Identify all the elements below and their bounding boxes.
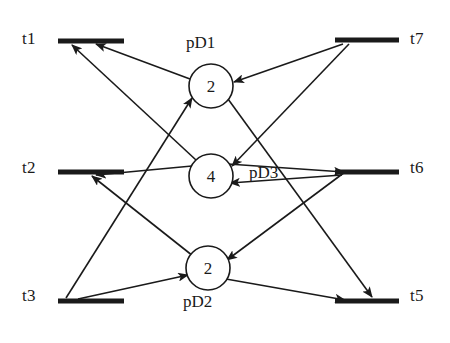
arc-pD1-to-t1 [96, 44, 190, 79]
place-token-count-pD1: 2 [207, 77, 216, 96]
transition-label-t5: t5 [410, 286, 424, 306]
place-token-count-pD2: 2 [204, 259, 213, 278]
transition-label-t1: t1 [22, 29, 36, 49]
place-label-pD2: pD2 [183, 292, 212, 312]
arc-pD2-to-t2 [92, 176, 193, 256]
place-label-pD1: pD1 [186, 33, 215, 53]
transition-label-t3: t3 [22, 286, 36, 306]
arc-t3-to-pD1 [66, 98, 192, 298]
arc-pD3-to-t6 [228, 164, 344, 172]
place-token-count-pD3: 4 [207, 167, 216, 186]
transition-label-t2: t2 [22, 158, 36, 178]
arc-t7-to-pD2 [227, 172, 345, 260]
place-label-pD3: pD3 [249, 163, 278, 183]
petri-net-canvas: 242 [0, 0, 450, 343]
transition-label-t7: t7 [410, 29, 424, 49]
arc-t3-to-pD2 [78, 275, 188, 299]
arc-pD2-to-t5 [226, 279, 345, 300]
place-layer: 242 [186, 64, 233, 290]
arc-pD3-to-t1 [72, 45, 196, 160]
arc-pD1-to-t5 [228, 99, 372, 297]
arc-t7-to-pD1 [234, 44, 343, 82]
transition-label-t6: t6 [410, 158, 424, 178]
arc-t6-to-pD3 [230, 175, 342, 183]
